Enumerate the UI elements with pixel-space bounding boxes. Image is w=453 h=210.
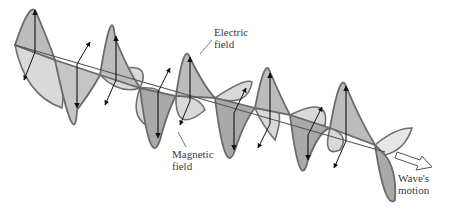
electric-field-label: Electric field [214, 26, 248, 50]
wave-motion-label: Wave's motion [398, 172, 429, 196]
wave-motion-arrow-icon [395, 152, 432, 170]
magnetic-field-label: Magnetic field [172, 148, 214, 172]
electric-field-wave [15, 9, 395, 201]
magnetic-field-leader [178, 132, 186, 147]
electric-field-leader [200, 40, 212, 54]
